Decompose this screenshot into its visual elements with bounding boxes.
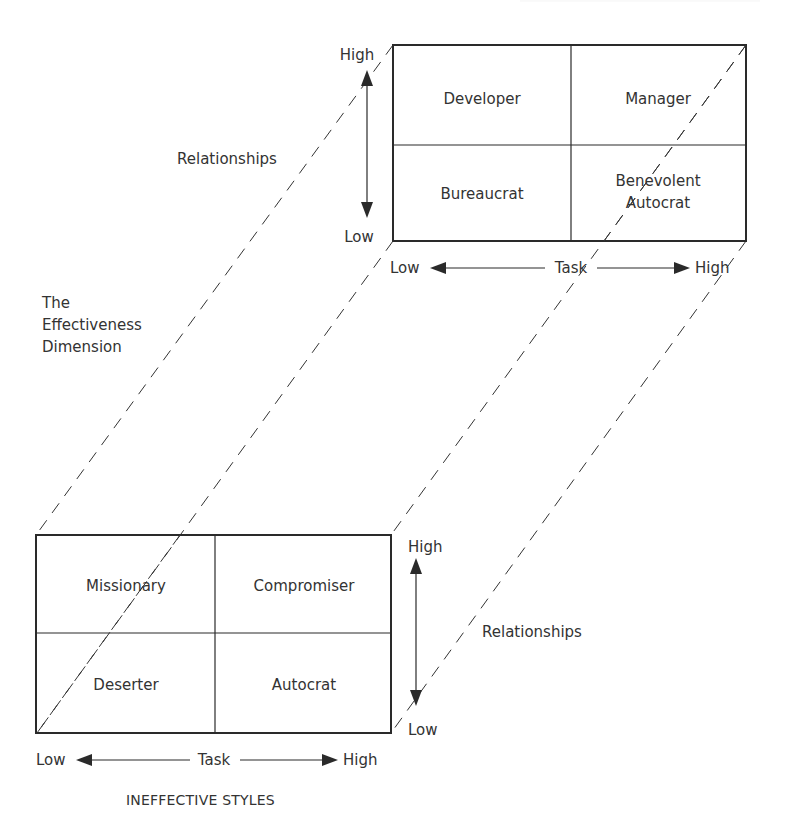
edge-bottom-right: [391, 241, 746, 733]
top-relationships-label: Relationships: [177, 150, 277, 168]
effective-x-high-label: High: [695, 259, 729, 277]
cell-manager: Manager: [625, 90, 692, 108]
depth-label-line2: Effectiveness: [42, 316, 142, 334]
arrow-right-icon: [674, 262, 690, 274]
depth-label-line3: Dimension: [42, 338, 122, 356]
bottom-relationships-label: Relationships: [482, 623, 582, 641]
ineffective-grid-frame: [36, 535, 391, 733]
ineffective-styles-caption: INEFFECTIVE STYLES: [126, 792, 275, 808]
edge-top-left: [36, 45, 393, 535]
ineffective-y-low-label: Low: [408, 721, 438, 739]
arrow-right-icon: [322, 754, 338, 766]
ineffective-x-high-label: High: [343, 751, 377, 769]
cell-benevolent-autocrat-line1: Benevolent: [615, 172, 700, 190]
effective-y-high-label: High: [340, 46, 374, 64]
arrow-left-icon: [430, 262, 446, 274]
ineffective-x-task-label: Task: [197, 751, 231, 769]
cell-deserter: Deserter: [93, 676, 159, 694]
effective-y-low-label: Low: [344, 228, 374, 246]
cell-developer: Developer: [443, 90, 521, 108]
arrow-up-icon: [410, 558, 422, 574]
cell-benevolent-autocrat-line2: Autocrat: [626, 194, 690, 212]
arrow-down-icon: [361, 202, 373, 218]
effective-grid-frame: [393, 45, 746, 241]
arrow-left-icon: [76, 754, 92, 766]
arrow-up-icon: [361, 70, 373, 86]
effective-styles-grid: Developer Manager Bureaucrat Benevolent …: [340, 45, 746, 277]
cell-compromiser: Compromiser: [254, 577, 356, 595]
ineffective-styles-grid: Missionary Compromiser Deserter Autocrat…: [36, 535, 442, 769]
ineffective-y-high-label: High: [408, 538, 442, 556]
cell-autocrat: Autocrat: [272, 676, 336, 694]
effectiveness-diagram: Developer Manager Bureaucrat Benevolent …: [0, 0, 786, 822]
effective-x-task-label: Task: [554, 259, 588, 277]
depth-label-line1: The: [41, 294, 70, 312]
ineffective-x-low-label: Low: [36, 751, 66, 769]
cell-missionary: Missionary: [86, 577, 166, 595]
cell-bureaucrat: Bureaucrat: [440, 185, 523, 203]
effective-x-low-label: Low: [390, 259, 420, 277]
